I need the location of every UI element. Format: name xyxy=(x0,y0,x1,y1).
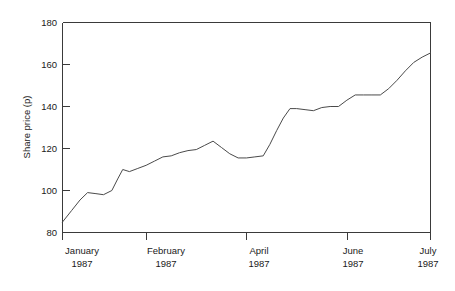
x-label-year-january: 1987 xyxy=(71,258,92,269)
y-tick-label-100: 100 xyxy=(41,185,57,196)
y-tick-label-160: 160 xyxy=(41,59,57,70)
x-axis-category-labels: January 1987 February 1987 April 1987 Ju… xyxy=(65,245,438,269)
x-label-year-april: 1987 xyxy=(248,258,269,269)
plot-frame xyxy=(63,23,431,233)
data-line-share-price xyxy=(63,53,431,222)
y-tick-marks xyxy=(63,23,70,233)
x-tick-marks xyxy=(63,233,431,240)
x-label-year-february: 1987 xyxy=(155,258,176,269)
share-price-line-chart: 180 160 140 120 100 80 Share price (p) J… xyxy=(0,0,455,291)
y-tick-label-140: 140 xyxy=(41,101,57,112)
x-label-month-january: January xyxy=(65,245,99,256)
x-label-year-july: 1987 xyxy=(417,258,438,269)
x-label-month-february: February xyxy=(147,245,185,256)
y-tick-label-80: 80 xyxy=(46,227,57,238)
y-tick-label-120: 120 xyxy=(41,143,57,154)
x-label-month-june: June xyxy=(343,245,364,256)
x-label-month-july: July xyxy=(420,245,437,256)
chart-figure: 180 160 140 120 100 80 Share price (p) J… xyxy=(0,0,455,291)
y-tick-label-180: 180 xyxy=(41,17,57,28)
y-tick-labels: 180 160 140 120 100 80 xyxy=(41,17,57,238)
y-axis-title: Share price (p) xyxy=(21,96,32,159)
x-label-month-april: April xyxy=(249,245,268,256)
x-label-year-june: 1987 xyxy=(342,258,363,269)
